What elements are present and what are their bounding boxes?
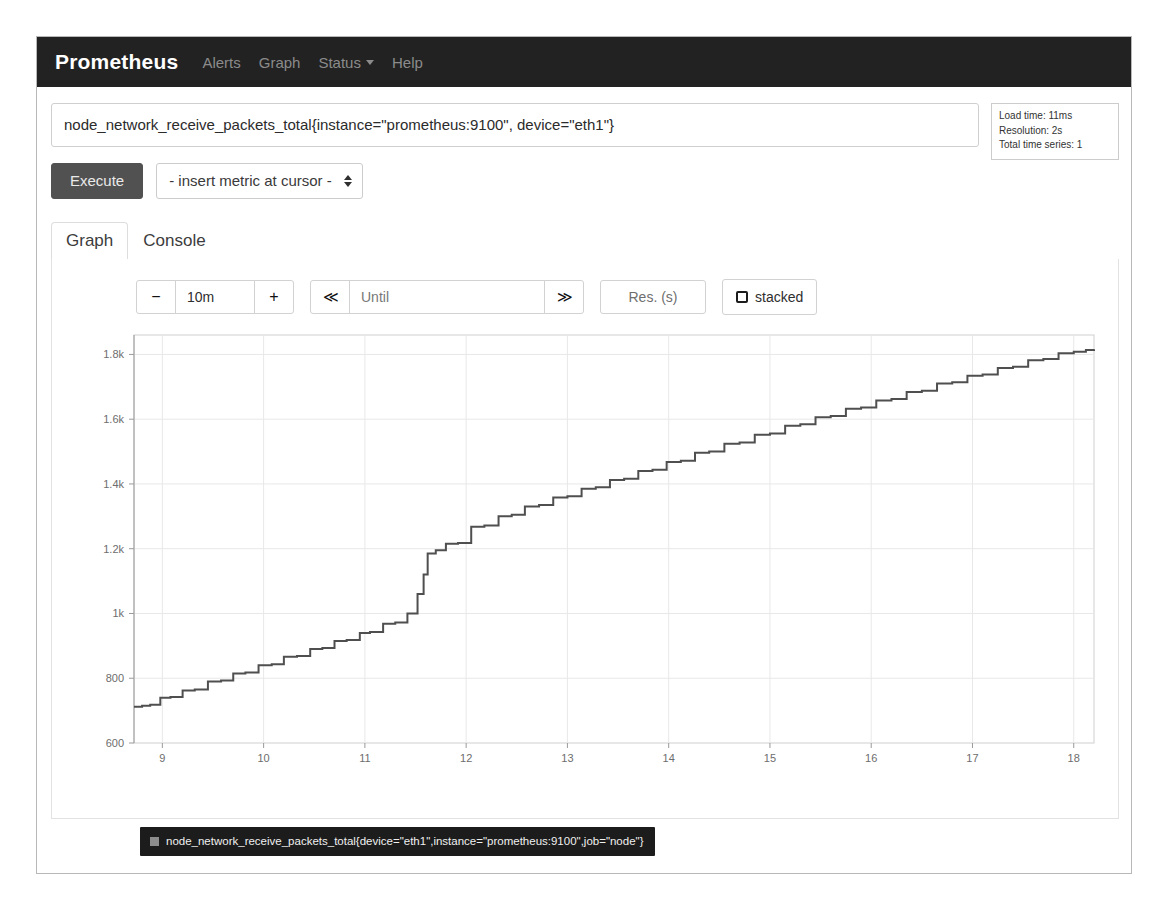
nav-link-alerts[interactable]: Alerts [202, 54, 240, 71]
nav-link-help[interactable]: Help [392, 54, 423, 71]
svg-text:11: 11 [359, 752, 370, 764]
nav-link-alerts-label: Alerts [202, 54, 240, 71]
svg-text:18: 18 [1068, 752, 1080, 764]
query-stats-panel: Load time: 11ms Resolution: 2s Total tim… [991, 103, 1119, 160]
nav-link-help-label: Help [392, 54, 423, 71]
metric-select-wrapper: - insert metric at cursor - [156, 163, 363, 199]
execute-button[interactable]: Execute [51, 163, 143, 199]
double-left-icon: ≪ [323, 288, 337, 306]
resolution-input[interactable]: Res. (s) [600, 280, 706, 314]
svg-text:16: 16 [865, 752, 877, 764]
brand-prometheus[interactable]: Prometheus [55, 50, 178, 74]
execute-row: Execute - insert metric at cursor - [51, 163, 363, 199]
screenshot-root: Prometheus Alerts Graph Status Help [0, 0, 1168, 920]
navbar-links: Alerts Graph Status Help [202, 54, 422, 71]
expression-wrapper: node_network_receive_packets_total{insta… [51, 103, 979, 151]
time-back-button[interactable]: ≪ [310, 280, 350, 314]
svg-text:1.8k: 1.8k [103, 348, 124, 360]
tab-console[interactable]: Console [128, 222, 220, 260]
checkbox-unchecked-icon [736, 291, 748, 303]
until-input[interactable]: Until [349, 280, 545, 314]
insert-metric-select[interactable]: - insert metric at cursor - [156, 163, 363, 199]
chart-legend[interactable]: node_network_receive_packets_total{devic… [140, 827, 655, 856]
svg-text:13: 13 [561, 752, 573, 764]
svg-text:10: 10 [257, 752, 269, 764]
nav-link-status[interactable]: Status [318, 54, 374, 71]
svg-text:14: 14 [663, 752, 675, 764]
chevron-down-icon [366, 60, 374, 65]
stacked-toggle[interactable]: stacked [722, 279, 817, 315]
navbar: Prometheus Alerts Graph Status Help [37, 37, 1131, 87]
range-input[interactable]: 10m [175, 280, 255, 314]
graph-controls: − 10m + ≪ Until ≫ Res. (s) stacked [136, 279, 817, 315]
range-decrease-button[interactable]: − [136, 280, 176, 314]
range-increase-button[interactable]: + [254, 280, 294, 314]
svg-text:600: 600 [106, 737, 124, 749]
legend-series-label: node_network_receive_packets_total{devic… [166, 835, 643, 847]
svg-text:1.4k: 1.4k [103, 478, 124, 490]
svg-text:1.6k: 1.6k [103, 413, 124, 425]
time-series-chart[interactable]: 6008001k1.2k1.4k1.6k1.8k9101112131415161… [72, 329, 1102, 779]
svg-text:1.2k: 1.2k [103, 543, 124, 555]
tab-graph[interactable]: Graph [51, 222, 128, 260]
nav-link-graph[interactable]: Graph [259, 54, 301, 71]
query-row: node_network_receive_packets_total{insta… [51, 103, 1119, 160]
nav-link-status-label: Status [318, 54, 361, 71]
app-page-frame: Prometheus Alerts Graph Status Help [36, 36, 1132, 874]
stacked-label: stacked [755, 289, 803, 305]
stat-load-time: Load time: 11ms [999, 109, 1111, 124]
expression-input[interactable]: node_network_receive_packets_total{insta… [51, 103, 979, 147]
range-input-group: − 10m + [136, 280, 294, 314]
graph-panel: − 10m + ≪ Until ≫ Res. (s) stacked [51, 259, 1119, 819]
chart-area[interactable]: 6008001k1.2k1.4k1.6k1.8k9101112131415161… [72, 329, 1102, 779]
svg-text:15: 15 [764, 752, 776, 764]
time-forward-button[interactable]: ≫ [544, 280, 584, 314]
time-input-group: ≪ Until ≫ [310, 280, 584, 314]
svg-text:1k: 1k [112, 607, 124, 619]
svg-text:17: 17 [966, 752, 978, 764]
svg-text:12: 12 [460, 752, 472, 764]
panel-tabs: Graph Console [51, 221, 1119, 260]
nav-link-graph-label: Graph [259, 54, 301, 71]
legend-color-swatch [150, 837, 159, 846]
svg-text:800: 800 [106, 672, 124, 684]
double-right-icon: ≫ [557, 288, 571, 306]
svg-text:9: 9 [159, 752, 165, 764]
stat-resolution: Resolution: 2s [999, 124, 1111, 139]
stat-total-time-series: Total time series: 1 [999, 138, 1111, 153]
